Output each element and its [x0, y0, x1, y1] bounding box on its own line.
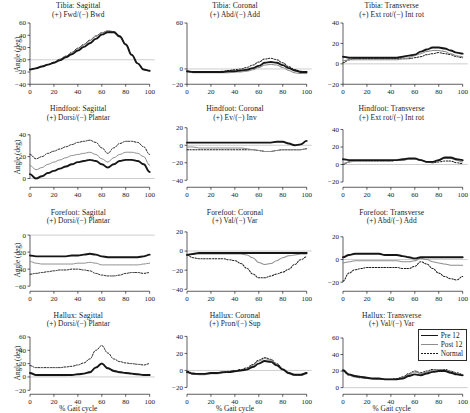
- svg-text:40: 40: [388, 294, 396, 302]
- svg-text:40: 40: [332, 351, 340, 359]
- svg-text:−20: −20: [172, 384, 183, 392]
- chart-panel-forefoot-sagittal: Forefoot: Sagittal(+) Dorsi/(−) Plantar−…: [0, 207, 157, 310]
- svg-text:80: 80: [436, 294, 444, 302]
- svg-text:20: 20: [364, 294, 372, 302]
- x-axis-label: % Gait cycle: [313, 404, 470, 413]
- svg-text:20: 20: [332, 144, 340, 152]
- svg-text:0: 0: [342, 294, 346, 302]
- legend-label: Post 12: [441, 340, 463, 349]
- svg-text:0: 0: [28, 294, 32, 302]
- legend-swatch-post-12-icon: [421, 344, 438, 345]
- series-line-normal: [30, 345, 150, 367]
- chart-panel-hallux-coronal: Hallux: Coronal(+) Pron/(−) Sup−20020400…: [157, 310, 314, 413]
- svg-text:0: 0: [185, 88, 189, 96]
- plot-area: −2002040020406080100: [313, 0, 470, 103]
- legend-item: Pre 12: [421, 331, 463, 340]
- svg-text:20: 20: [207, 191, 215, 199]
- gait-kinematics-figure: Tibia: Sagittal(+) Fwd/(−) Bwd−40−200204…: [0, 0, 470, 413]
- y-axis-label: Angle (deg): [14, 346, 22, 381]
- svg-text:40: 40: [388, 191, 396, 199]
- svg-text:0: 0: [336, 255, 340, 263]
- series-line-pre-12: [30, 253, 150, 256]
- chart-panel-hindfoot-coronal: Hindfoot: Coronal(+) Ev/(−) Inv−40−20020…: [157, 103, 314, 206]
- series-line-post-12: [30, 153, 150, 171]
- svg-text:80: 80: [122, 191, 129, 199]
- svg-text:40: 40: [231, 294, 239, 302]
- svg-text:−40: −40: [172, 177, 183, 185]
- svg-text:80: 80: [279, 88, 287, 96]
- series-line-normal: [30, 269, 150, 276]
- svg-text:80: 80: [436, 88, 444, 96]
- chart-panel-forefoot-transverse: Forefoot: Transverse(+) Abd/(−) Add−2002…: [313, 207, 470, 310]
- svg-text:20: 20: [332, 367, 340, 375]
- x-axis-label: % Gait cycle: [0, 404, 157, 413]
- svg-text:40: 40: [19, 131, 26, 139]
- svg-text:40: 40: [231, 88, 239, 96]
- chart-panel-tibia-sagittal: Tibia: Sagittal(+) Fwd/(−) Bwd−40−200204…: [0, 0, 157, 103]
- svg-text:100: 100: [301, 294, 312, 302]
- series-line-normal: [343, 261, 463, 280]
- svg-text:60: 60: [332, 334, 340, 342]
- svg-text:60: 60: [176, 19, 184, 27]
- svg-text:40: 40: [176, 333, 184, 341]
- svg-text:20: 20: [50, 294, 57, 302]
- svg-text:0: 0: [28, 88, 32, 96]
- svg-text:40: 40: [332, 19, 340, 27]
- svg-text:60: 60: [98, 191, 105, 199]
- svg-text:0: 0: [342, 191, 346, 199]
- legend-label: Pre 12: [441, 331, 460, 340]
- svg-text:20: 20: [176, 350, 184, 358]
- svg-text:60: 60: [19, 333, 26, 341]
- series-line-normal: [30, 140, 150, 159]
- plot-area: −2002040020406080100: [157, 310, 314, 413]
- series-line-pre-12: [30, 363, 150, 374]
- svg-text:−20: −20: [328, 81, 339, 89]
- svg-text:20: 20: [332, 233, 340, 241]
- svg-text:60: 60: [98, 88, 105, 96]
- chart-panel-tibia-transverse: Tibia: Transverse(+) Ext rot/(−) Int rot…: [313, 0, 470, 103]
- svg-text:60: 60: [412, 88, 420, 96]
- svg-text:100: 100: [144, 294, 155, 302]
- series-line-pre-12: [187, 141, 307, 145]
- legend-label: Normal: [441, 349, 463, 358]
- svg-text:100: 100: [458, 294, 469, 302]
- svg-text:40: 40: [74, 294, 81, 302]
- svg-text:20: 20: [364, 191, 372, 199]
- svg-text:−20: −20: [172, 266, 183, 274]
- plot-area: −200204060020406080100: [0, 310, 157, 413]
- svg-text:−20: −20: [328, 179, 339, 187]
- y-axis-label: Angle (deg): [14, 140, 22, 175]
- svg-text:100: 100: [301, 191, 312, 199]
- svg-text:0: 0: [179, 247, 183, 255]
- legend-swatch-normal-icon: [421, 353, 438, 354]
- legend-item: Normal: [421, 349, 463, 358]
- series-line-pre-12: [30, 160, 150, 179]
- svg-text:20: 20: [50, 191, 57, 199]
- svg-text:40: 40: [231, 191, 239, 199]
- chart-panel-hallux-sagittal: Hallux: Sagittal(+) Dorsi/(−) Plantar−20…: [0, 310, 157, 413]
- svg-text:−20: −20: [172, 159, 183, 167]
- chart-panel-hindfoot-transverse: Hindfoot: Transverse(+) Ext rot/(−) Int …: [313, 103, 470, 206]
- chart-panel-forefoot-coronal: Forefoot: Coronal(+) Val/(−) Var−40−2002…: [157, 207, 314, 310]
- svg-text:60: 60: [255, 294, 263, 302]
- svg-text:60: 60: [412, 191, 420, 199]
- svg-text:−20: −20: [15, 386, 26, 394]
- svg-text:0: 0: [336, 161, 340, 169]
- svg-text:80: 80: [279, 294, 287, 302]
- svg-text:60: 60: [98, 294, 105, 302]
- svg-text:100: 100: [144, 88, 155, 96]
- svg-text:0: 0: [185, 191, 189, 199]
- svg-text:0: 0: [22, 373, 26, 381]
- svg-text:0: 0: [28, 191, 32, 199]
- plot-area: 02040020406080100: [0, 103, 157, 206]
- plot-area: 0204060020406080100: [313, 310, 470, 413]
- series-line-normal: [187, 254, 307, 277]
- legend: Pre 12Post 12Normal: [418, 329, 467, 361]
- svg-text:20: 20: [332, 40, 340, 48]
- svg-text:0: 0: [179, 142, 183, 150]
- svg-text:20: 20: [50, 88, 57, 96]
- svg-text:60: 60: [255, 191, 263, 199]
- chart-panel-hallux-transverse: Hallux: Transverse(+) Val/(−) Var0204060…: [313, 310, 470, 413]
- svg-text:−60: −60: [15, 282, 26, 290]
- plot-area: −40−20020020406080100: [157, 207, 314, 310]
